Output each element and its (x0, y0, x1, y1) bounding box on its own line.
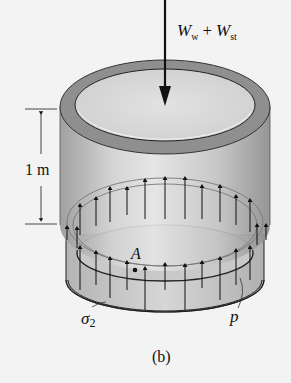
point-a-marker (133, 268, 138, 273)
figure-caption: (b) (152, 348, 171, 366)
load-label: Ww+Wst (177, 21, 237, 42)
sigma-2-label: σ2 (81, 309, 95, 330)
point-a-label: A (130, 245, 141, 262)
pressure-label: p (229, 307, 239, 326)
cylinder-stress-diagram: Ww+Wst 1 m A σ2 p (b) (0, 0, 291, 383)
dimension-label: 1 m (25, 161, 50, 178)
load-arrow (159, 0, 171, 106)
